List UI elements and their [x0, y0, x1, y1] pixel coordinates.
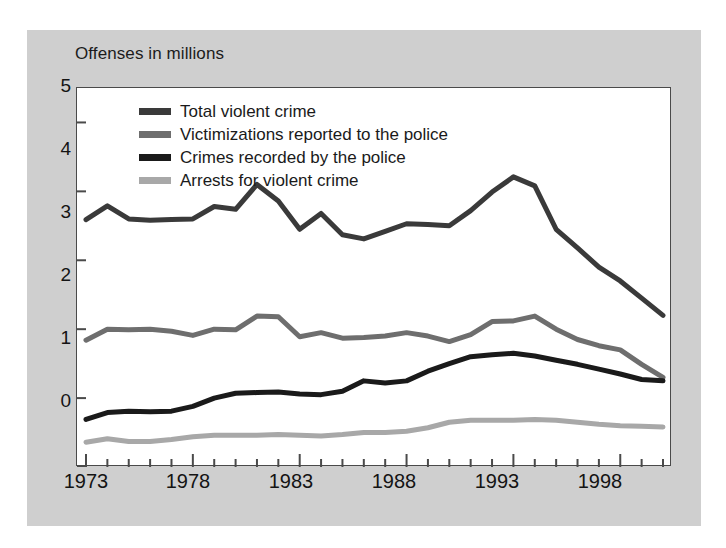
legend-label-crimes-recorded: Crimes recorded by the police: [180, 146, 406, 169]
series-line-total-violent-crime: [86, 177, 663, 316]
chart-title: Offenses in millions: [75, 44, 224, 64]
y-tick-label-2: 2: [37, 264, 71, 286]
legend-label-arrests: Arrests for violent crime: [180, 169, 359, 192]
legend-swatch-crimes-recorded: [139, 154, 171, 161]
y-tick-label-1: 1: [37, 327, 71, 349]
x-tick-label-1993: 1993: [475, 470, 520, 493]
y-tick-label-0: 0: [37, 390, 71, 412]
legend-item-victimizations-reported: Victimizations reported to the police: [139, 123, 448, 146]
x-tick-label-1983: 1983: [269, 470, 314, 493]
series-line-victimizations-reported-to-the-police: [86, 316, 663, 377]
legend-item-arrests: Arrests for violent crime: [139, 169, 448, 192]
chart-figure: Offenses in millions 5 4 3 2 1 0 Total v…: [0, 0, 726, 548]
legend-swatch-victimizations-reported: [139, 131, 171, 138]
x-tick-label-1988: 1988: [372, 470, 417, 493]
legend-swatch-total-violent-crime: [139, 108, 171, 115]
series-line-crimes-recorded-by-the-police: [86, 353, 663, 419]
series-line-arrests-for-violent-crime: [86, 419, 663, 442]
y-tick-label-5: 5: [37, 75, 71, 97]
plot-area: Total violent crime Victimizations repor…: [76, 87, 671, 466]
x-tick-label-1978: 1978: [166, 470, 211, 493]
legend-label-victimizations-reported: Victimizations reported to the police: [180, 123, 448, 146]
legend-item-total-violent-crime: Total violent crime: [139, 100, 448, 123]
legend-label-total-violent-crime: Total violent crime: [180, 100, 316, 123]
y-axis-labels: 5 4 3 2 1 0: [35, 87, 71, 466]
legend-item-crimes-recorded: Crimes recorded by the police: [139, 146, 448, 169]
x-tick-label-1998: 1998: [578, 470, 623, 493]
x-axis-labels: 1973 1978 1983 1988 1993 1998: [76, 470, 671, 500]
y-tick-label-3: 3: [37, 201, 71, 223]
chart-legend: Total violent crime Victimizations repor…: [139, 100, 448, 192]
y-tick-label-4: 4: [37, 138, 71, 160]
figure-panel: Offenses in millions 5 4 3 2 1 0 Total v…: [27, 30, 701, 526]
legend-swatch-arrests: [139, 177, 171, 184]
x-tick-label-1973: 1973: [64, 470, 109, 493]
